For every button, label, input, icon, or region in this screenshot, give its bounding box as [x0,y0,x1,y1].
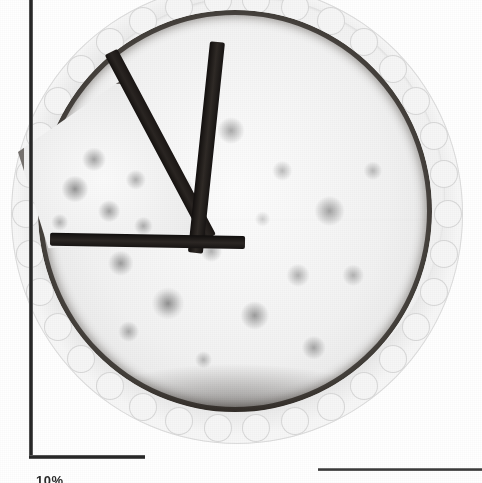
vertical-axis [29,0,33,459]
plate-scallop [431,241,457,267]
plate-scallop [435,201,461,227]
plate-scallop [421,123,447,149]
photograph [0,0,482,483]
plate-scallop [431,161,457,187]
pie-chart-photo-figure: 10% [0,0,482,483]
horizontal-axis [29,455,145,459]
plate-scallop [380,56,406,82]
axis-tick-label: 10% [36,474,64,483]
horizontal-axis-right-segment [318,468,482,471]
plate-scallop [205,415,231,441]
plate-scallop [243,415,269,441]
